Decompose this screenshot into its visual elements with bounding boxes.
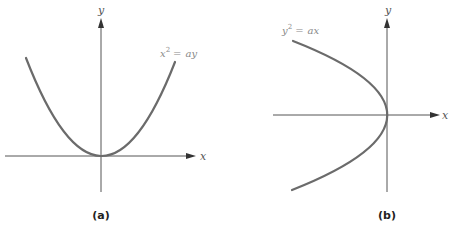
equation-label: y2=ax: [281, 23, 319, 36]
x-axis-label: x: [200, 150, 207, 163]
x-axis-arrow-icon: [186, 153, 196, 159]
panel-caption: (a): [92, 209, 109, 222]
panel-caption: (b): [378, 209, 396, 222]
figure: x y x2=ay (a) x y: [0, 0, 449, 232]
y-axis-arrow-icon: [384, 18, 390, 28]
x-axis-arrow-icon: [430, 112, 440, 118]
x-axis-label: x: [442, 109, 449, 122]
panel-a: x y x2=ay (a): [5, 4, 207, 222]
figure-canvas: x y x2=ay (a) x y: [0, 0, 449, 232]
panel-b: x y y2=ax (b): [273, 4, 449, 222]
equation-label: x2=ay: [160, 46, 197, 59]
y-axis-label: y: [384, 4, 392, 17]
y-axis-label: y: [97, 4, 105, 17]
y-axis-arrow-icon: [98, 18, 104, 28]
